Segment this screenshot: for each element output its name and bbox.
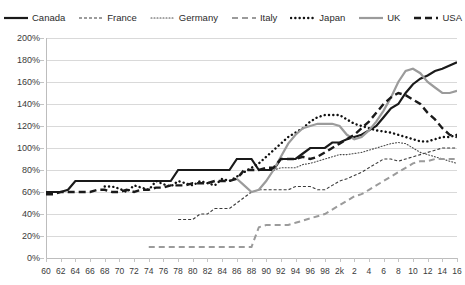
legend-label: Canada xyxy=(32,13,65,23)
x-tick-label: 96 xyxy=(305,266,314,276)
x-tick-label: 98 xyxy=(320,266,329,276)
legend-swatch-japan-icon xyxy=(290,13,316,23)
y-tick-label: 120% xyxy=(17,121,40,131)
x-tick-mark xyxy=(354,258,355,262)
y-tick-mark xyxy=(40,104,44,105)
x-tick-label: 94 xyxy=(291,266,300,276)
y-tick-mark xyxy=(40,192,44,193)
y-tick-label: 0% xyxy=(27,253,40,263)
x-tick-label: 74 xyxy=(144,266,153,276)
x-tick-mark xyxy=(310,258,311,262)
x-tick-label: 82 xyxy=(203,266,212,276)
x-tick-mark xyxy=(281,258,282,262)
x-tick-label: 66 xyxy=(85,266,94,276)
legend-label: UK xyxy=(387,13,400,23)
x-tick-mark xyxy=(398,258,399,262)
x-tick-mark xyxy=(75,258,76,262)
x-tick-label: 2 xyxy=(352,266,357,276)
x-tick-mark xyxy=(384,258,385,262)
x-tick-label: 68 xyxy=(100,266,109,276)
legend-swatch-uk-icon xyxy=(358,13,384,23)
plot-area xyxy=(46,38,457,258)
legend-item-usa[interactable]: USA xyxy=(413,13,462,23)
x-tick-mark xyxy=(442,258,443,262)
x-tick-label: 64 xyxy=(71,266,80,276)
legend-item-germany[interactable]: Germany xyxy=(150,13,218,23)
y-tick-label: 200% xyxy=(17,33,40,43)
x-tick-mark xyxy=(119,258,120,262)
y-tick-label: 20% xyxy=(22,231,40,241)
legend-item-canada[interactable]: Canada xyxy=(3,13,65,23)
x-tick-mark xyxy=(266,258,267,262)
x-tick-label: 84 xyxy=(217,266,226,276)
legend-item-france[interactable]: France xyxy=(78,13,137,23)
x-tick-label: 6 xyxy=(381,266,386,276)
x-tick-mark xyxy=(340,258,341,262)
legend-swatch-usa-icon xyxy=(413,13,439,23)
legend-item-japan[interactable]: Japan xyxy=(290,13,345,23)
legend-item-italy[interactable]: Italy xyxy=(231,13,277,23)
y-tick-mark xyxy=(40,126,44,127)
series-lines xyxy=(46,38,457,258)
chart-legend: CanadaFranceGermanyItalyJapanUKUSA xyxy=(0,8,465,28)
x-tick-mark xyxy=(428,258,429,262)
x-tick-mark xyxy=(207,258,208,262)
legend-swatch-france-icon xyxy=(78,13,104,23)
series-line-usa xyxy=(46,93,457,194)
legend-swatch-germany-icon xyxy=(150,13,176,23)
x-tick-mark xyxy=(46,258,47,262)
x-tick-mark xyxy=(134,258,135,262)
x-tick-label: 92 xyxy=(276,266,285,276)
x-tick-mark xyxy=(237,258,238,262)
x-tick-mark xyxy=(178,258,179,262)
y-tick-label: 180% xyxy=(17,55,40,65)
series-line-canada xyxy=(46,62,457,192)
x-tick-label: 12 xyxy=(423,266,432,276)
x-tick-mark xyxy=(413,258,414,262)
legend-label: Japan xyxy=(319,13,345,23)
y-tick-mark xyxy=(40,258,44,259)
x-tick-label: 60 xyxy=(41,266,50,276)
x-tick-label: 90 xyxy=(261,266,270,276)
x-tick-label: 72 xyxy=(129,266,138,276)
x-tick-mark xyxy=(90,258,91,262)
series-line-france xyxy=(178,148,457,220)
x-tick-mark xyxy=(369,258,370,262)
x-tick-label: 16 xyxy=(452,266,461,276)
x-tick-label: 80 xyxy=(188,266,197,276)
series-line-uk xyxy=(237,69,457,192)
x-tick-mark xyxy=(252,258,253,262)
legend-swatch-canada-icon xyxy=(3,13,29,23)
x-tick-mark xyxy=(105,258,106,262)
x-tick-mark xyxy=(61,258,62,262)
y-tick-label: 40% xyxy=(22,209,40,219)
y-tick-mark xyxy=(40,170,44,171)
legend-label: Italy xyxy=(260,13,277,23)
x-tick-mark xyxy=(149,258,150,262)
x-tick-label: 8 xyxy=(396,266,401,276)
chart-container: CanadaFranceGermanyItalyJapanUKUSA 0%20%… xyxy=(0,0,465,285)
y-tick-label: 80% xyxy=(22,165,40,175)
y-tick-label: 60% xyxy=(22,187,40,197)
y-tick-mark xyxy=(40,214,44,215)
x-axis: 6062646668707274767880828486889092949698… xyxy=(46,258,457,284)
x-tick-mark xyxy=(193,258,194,262)
legend-label: USA xyxy=(442,13,462,23)
series-line-italy xyxy=(149,159,457,247)
x-tick-label: 86 xyxy=(232,266,241,276)
y-tick-mark xyxy=(40,82,44,83)
y-tick-mark xyxy=(40,38,44,39)
legend-swatch-italy-icon xyxy=(231,13,257,23)
y-tick-mark xyxy=(40,236,44,237)
y-tick-mark xyxy=(40,60,44,61)
legend-label: Germany xyxy=(179,13,218,23)
legend-item-uk[interactable]: UK xyxy=(358,13,400,23)
x-tick-label: 2k xyxy=(335,266,344,276)
x-tick-label: 88 xyxy=(247,266,256,276)
y-axis: 0%20%40%60%80%100%120%140%160%180%200% xyxy=(0,38,44,258)
y-tick-label: 140% xyxy=(17,99,40,109)
x-tick-label: 62 xyxy=(56,266,65,276)
x-tick-mark xyxy=(222,258,223,262)
x-tick-label: 10 xyxy=(408,266,417,276)
x-tick-label: 76 xyxy=(159,266,168,276)
